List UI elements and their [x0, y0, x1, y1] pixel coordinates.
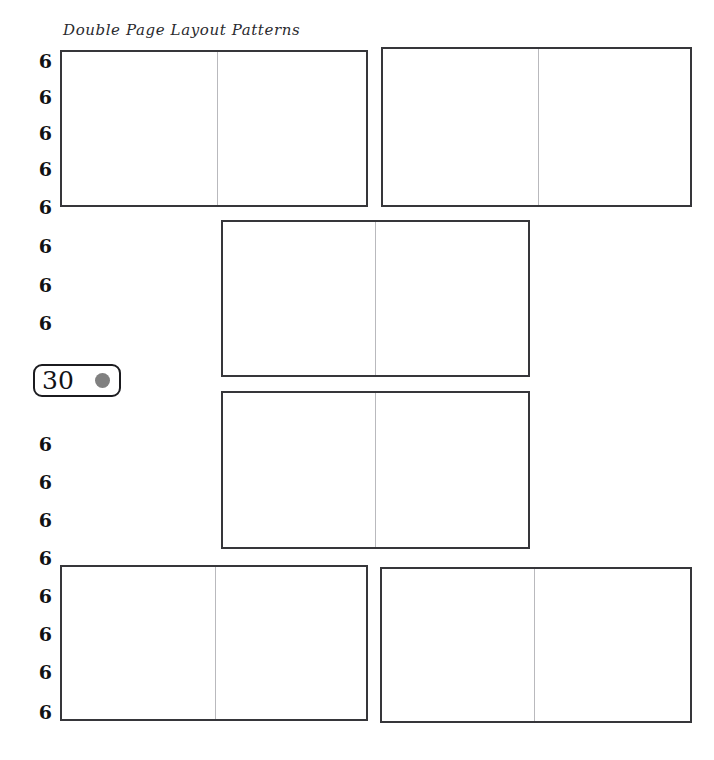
ruler-tick: 6	[0, 663, 52, 682]
ruler-tick: 6	[0, 625, 52, 644]
ruler-tick: 6	[0, 160, 52, 179]
ruler-tick: 6	[0, 314, 52, 333]
spread-gutter-line	[375, 222, 376, 375]
spread-middle-lower[interactable]	[221, 391, 530, 549]
top-ghost-strip	[0, 0, 714, 12]
ruler-tick: 6	[0, 435, 52, 454]
count-badge-value: 30	[42, 368, 74, 393]
spread-top-right[interactable]	[381, 47, 692, 207]
ruler-tick: 6	[0, 703, 52, 722]
ruler-tick: 6	[0, 511, 52, 530]
ruler-tick: 6	[0, 276, 52, 295]
ruler-tick: 6	[0, 473, 52, 492]
ruler-tick: 6	[0, 237, 52, 256]
page-title: Double Page Layout Patterns	[63, 21, 300, 39]
spread-bottom-left[interactable]	[60, 565, 368, 721]
spread-gutter-line	[534, 569, 535, 721]
spread-gutter-line	[375, 393, 376, 547]
spread-top-left[interactable]	[60, 50, 368, 207]
ruler-tick: 6	[0, 198, 52, 217]
spread-gutter-line	[215, 567, 216, 719]
spread-bottom-right[interactable]	[380, 567, 692, 723]
spread-gutter-line	[217, 52, 218, 205]
spread-middle-upper[interactable]	[221, 220, 530, 377]
ruler-tick: 6	[0, 124, 52, 143]
ruler-tick: 6	[0, 549, 52, 568]
count-badge-30[interactable]: 30	[33, 364, 121, 397]
document-canvas: Double Page Layout Patterns 666666666666…	[0, 0, 714, 760]
ruler-tick: 6	[0, 88, 52, 107]
spread-gutter-line	[538, 49, 539, 205]
status-dot-icon	[95, 373, 110, 388]
ruler-tick: 6	[0, 587, 52, 606]
ruler-tick: 6	[0, 52, 52, 71]
